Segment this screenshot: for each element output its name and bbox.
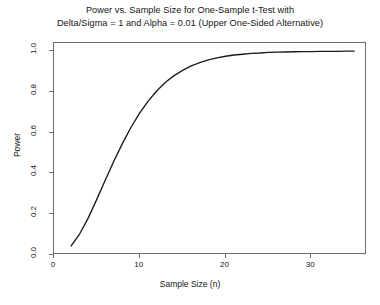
x-tick-label: 10 bbox=[126, 260, 152, 269]
y-tick-mark bbox=[49, 50, 53, 51]
x-axis-label: Sample Size (n) bbox=[0, 279, 380, 289]
y-tick-mark bbox=[49, 91, 53, 92]
y-tick-mark bbox=[49, 213, 53, 214]
y-axis-label: Power bbox=[12, 115, 22, 175]
y-tick-label: 0.2 bbox=[29, 202, 38, 222]
x-tick-mark bbox=[225, 254, 226, 258]
x-tick-mark bbox=[310, 254, 311, 258]
y-tick-mark bbox=[49, 132, 53, 133]
chart-title-line-2: Delta/Sigma = 1 and Alpha = 0.01 (Upper … bbox=[0, 17, 380, 30]
power-curve-line bbox=[54, 43, 367, 255]
x-tick-label: 20 bbox=[212, 260, 238, 269]
power-curve-figure: Power vs. Sample Size for One-Sample t-T… bbox=[0, 0, 380, 305]
x-tick-label: 30 bbox=[297, 260, 323, 269]
y-tick-mark bbox=[49, 172, 53, 173]
x-tick-mark bbox=[53, 254, 54, 258]
plot-area bbox=[53, 42, 366, 254]
y-tick-label: 1.0 bbox=[29, 39, 38, 59]
y-tick-label: 0.8 bbox=[29, 79, 38, 99]
x-tick-label: 0 bbox=[40, 260, 66, 269]
x-tick-mark bbox=[139, 254, 140, 258]
chart-title: Power vs. Sample Size for One-Sample t-T… bbox=[0, 4, 380, 29]
chart-title-line-1: Power vs. Sample Size for One-Sample t-T… bbox=[0, 4, 380, 17]
y-tick-label: 0.0 bbox=[29, 243, 38, 263]
y-tick-label: 0.4 bbox=[29, 161, 38, 181]
y-tick-label: 0.6 bbox=[29, 120, 38, 140]
